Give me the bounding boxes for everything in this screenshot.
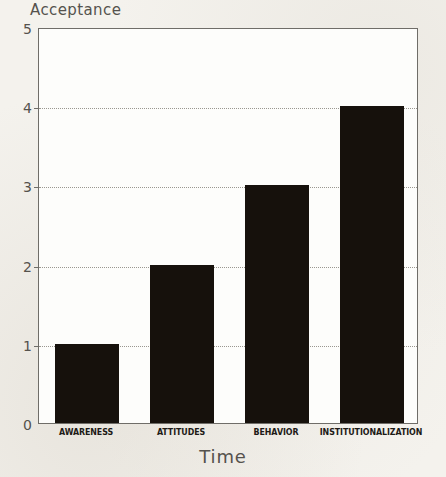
y-axis-tick-label: 4 (23, 101, 32, 115)
bar (340, 106, 404, 423)
bar (55, 344, 119, 423)
y-axis-tick-label: 2 (23, 260, 32, 274)
x-axis-category-label: INSTITUTIONALIZATION (283, 427, 446, 437)
y-axis-tick-label: 1 (23, 339, 32, 353)
y-axis-tick-mark (34, 267, 39, 268)
y-axis-tick-label: 3 (23, 180, 32, 194)
plot-area: 012345 (38, 28, 418, 424)
y-axis-tick-mark (34, 187, 39, 188)
chart-page: Acceptance 012345 Time AWARENESSATTITUDE… (0, 0, 446, 477)
plot-inner (39, 29, 417, 423)
bar (245, 185, 309, 423)
x-axis-title: Time (0, 446, 446, 467)
y-axis-tick-mark (34, 346, 39, 347)
bar (150, 265, 214, 423)
y-axis-tick-label: 5 (23, 22, 32, 36)
y-axis-tick-mark (34, 108, 39, 109)
y-axis-title: Acceptance (30, 1, 121, 19)
